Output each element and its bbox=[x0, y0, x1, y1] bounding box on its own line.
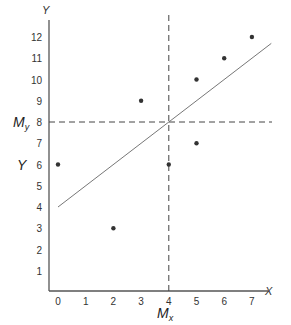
y-tick-label: 10 bbox=[31, 75, 43, 86]
y-tick-label: 5 bbox=[36, 181, 42, 192]
data-point bbox=[194, 141, 198, 145]
data-point bbox=[111, 226, 115, 230]
y-tick-label: 3 bbox=[36, 223, 42, 234]
x-tick-label: 3 bbox=[138, 296, 144, 307]
y-side-label: Y bbox=[17, 157, 28, 173]
scatter-chart: 12345678910111201234567 X Y Y My Mx bbox=[0, 0, 291, 325]
my-label: My bbox=[13, 114, 30, 132]
y-tick-label: 11 bbox=[32, 53, 43, 64]
y-tick-label: 9 bbox=[36, 96, 42, 107]
mx-main: M bbox=[157, 305, 169, 321]
x-tick-label: 0 bbox=[55, 296, 61, 307]
mean-lines bbox=[49, 15, 272, 291]
axes bbox=[49, 20, 268, 291]
data-point bbox=[167, 162, 171, 166]
x-tick-label: 2 bbox=[111, 296, 117, 307]
y-tick-label: 1 bbox=[36, 266, 42, 277]
tick-labels: 12345678910111201234567 bbox=[31, 32, 255, 307]
data-point bbox=[250, 35, 254, 39]
data-point bbox=[222, 56, 226, 60]
regression-line bbox=[58, 43, 271, 207]
y-axis-label: Y bbox=[42, 4, 50, 16]
my-sub: y bbox=[24, 122, 30, 132]
data-point bbox=[194, 77, 198, 81]
y-tick-label: 2 bbox=[36, 245, 42, 256]
y-tick-label: 12 bbox=[31, 32, 43, 43]
x-tick-label: 5 bbox=[194, 296, 200, 307]
y-tick-label: 6 bbox=[36, 160, 42, 171]
x-axis-label: X bbox=[264, 285, 273, 297]
mx-label: Mx bbox=[157, 305, 174, 323]
y-tick-label: 8 bbox=[36, 117, 42, 128]
data-point bbox=[139, 99, 143, 103]
x-tick-label: 1 bbox=[83, 296, 89, 307]
x-tick-label: 7 bbox=[249, 296, 255, 307]
x-tick-label: 6 bbox=[221, 296, 227, 307]
regression-line-path bbox=[58, 43, 271, 207]
data-point bbox=[56, 162, 60, 166]
y-tick-label: 4 bbox=[36, 202, 42, 213]
mx-sub: x bbox=[168, 313, 174, 323]
y-tick-label: 7 bbox=[36, 138, 42, 149]
my-main: M bbox=[13, 114, 25, 130]
